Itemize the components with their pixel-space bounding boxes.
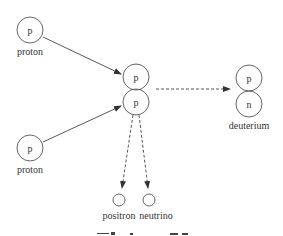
intermediate-top-symbol: p [134,72,139,83]
neutrino: neutrino [139,194,172,221]
fusion-diagram: p proton p proton p p p n deuterium posi… [0,0,283,236]
arrow-proton-bottom-to-intermediate [43,106,121,142]
deuterium-label: deuterium [229,120,270,131]
arrow-intermediate-to-neutrino [139,115,148,188]
deuterium-neutron-symbol: n [247,99,252,110]
positron-label: positron [103,210,136,221]
deuterium-proton-symbol: p [247,73,252,84]
proton-top-label: proton [17,46,43,57]
cropped-caption [97,232,188,235]
proton-bottom-symbol: p [28,143,33,154]
positron: positron [103,194,136,221]
intermediate-bottom-symbol: p [134,97,139,108]
intermediate-nucleus: p p [123,64,149,115]
proton-bottom-label: proton [17,164,43,175]
neutrino-label: neutrino [139,210,172,221]
arrow-proton-top-to-intermediate [43,37,121,74]
deuterium-nucleus: p n deuterium [229,65,270,131]
proton-top-symbol: p [28,25,33,36]
proton-bottom: p proton [17,135,43,175]
proton-top: p proton [17,17,43,57]
arrow-intermediate-to-positron [122,115,133,188]
